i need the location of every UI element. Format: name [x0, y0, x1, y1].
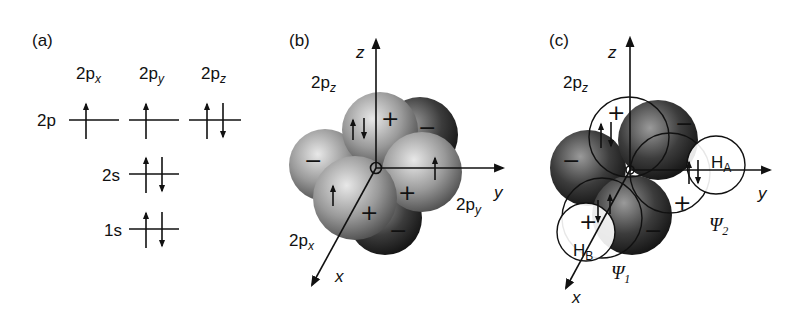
orbital-2px	[69, 104, 119, 139]
level-2s-label: 2s	[102, 166, 120, 185]
sign-minus-py: −	[418, 115, 436, 140]
sign-plus-py: +	[398, 180, 416, 205]
orbital-figure: (a) 2px 2py 2pz 2p 2s 1s	[0, 0, 803, 320]
orbital-2py	[129, 104, 179, 139]
panel-c: (c) + − − + + −	[549, 31, 770, 307]
sign-minus-c-top: −	[675, 111, 693, 136]
sign-minus-c-left: −	[562, 148, 580, 173]
panel-b: (b) + − − + + − z y x 2p	[289, 31, 504, 286]
label-2py-b: 2py	[456, 195, 482, 217]
axis-z-label-b: z	[355, 43, 365, 62]
header-2py: 2py	[139, 64, 165, 86]
orbital-2pz	[189, 103, 241, 139]
label-2pz-b: 2pz	[311, 73, 336, 95]
label-2pz-c: 2pz	[563, 73, 588, 95]
orbital-2s	[129, 157, 179, 193]
level-2p-label: 2p	[37, 111, 56, 130]
axis-z-label-c: z	[607, 43, 617, 62]
sign-plus-px: +	[360, 200, 378, 225]
level-1s-label: 1s	[104, 221, 122, 240]
panel-c-label: (c)	[549, 31, 569, 50]
sign-minus-pz: −	[389, 218, 407, 243]
panel-b-label: (b)	[289, 31, 310, 50]
axis-y-label-c: y	[757, 184, 768, 203]
orbital-1s	[129, 212, 179, 248]
panel-a: (a) 2px 2py 2pz 2p 2s 1s	[32, 31, 241, 248]
header-2pz: 2pz	[201, 64, 226, 86]
panel-a-label: (a)	[32, 31, 53, 50]
label-2px-b: 2px	[289, 231, 315, 253]
header-2px: 2px	[76, 64, 102, 86]
label-psi1: Ψ1	[611, 262, 630, 286]
sign-plus-c-top: +	[607, 100, 625, 125]
label-psi2: Ψ2	[709, 214, 728, 238]
sign-minus-c-bottom: −	[644, 218, 662, 243]
sign-plus-c-bottom: +	[579, 209, 597, 234]
sign-plus-pz: +	[381, 106, 399, 131]
axis-y-label-b: y	[493, 183, 504, 202]
axis-x-label-c: x	[571, 288, 581, 307]
sign-plus-c-right: +	[673, 190, 691, 215]
sign-minus-px: −	[304, 148, 322, 173]
axis-x-label-b: x	[334, 267, 344, 286]
